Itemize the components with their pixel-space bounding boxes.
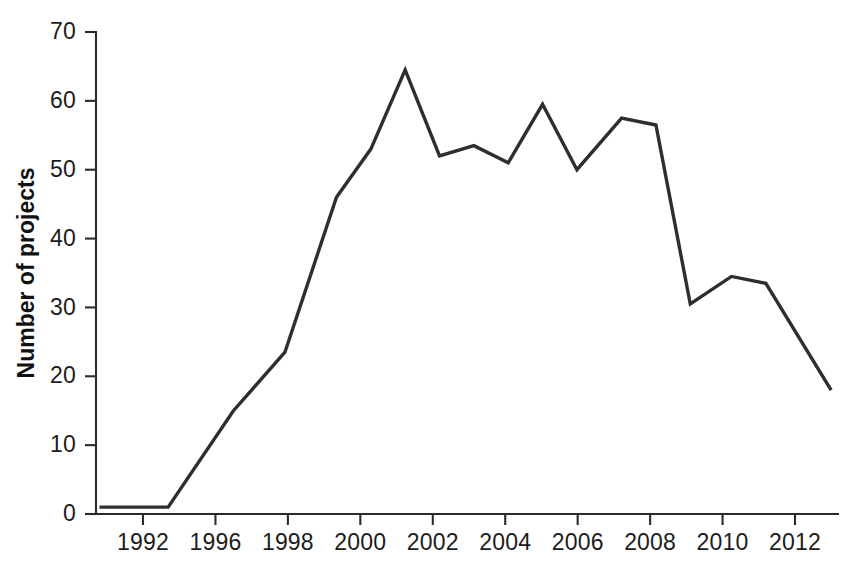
data-series-group (99, 70, 831, 507)
x-tick-label: 2006 (552, 529, 604, 555)
y-tick-label: 0 (63, 500, 76, 526)
y-tick-label: 60 (50, 87, 76, 113)
x-tick-label: 2012 (769, 529, 821, 555)
chart-figure: 010203040506070 199219961998200020022004… (0, 0, 841, 577)
x-tick-label: 2002 (407, 529, 459, 555)
x-axis-group: 1992199619982000200220042006200820102012 (96, 514, 838, 555)
y-tick-label: 20 (50, 362, 76, 388)
x-tick-label: 1998 (262, 529, 314, 555)
data-line-number-of-projects (99, 70, 831, 507)
x-tick-label: 2008 (624, 529, 676, 555)
y-tick-label: 50 (50, 156, 76, 182)
y-axis-title: Number of projects (13, 168, 39, 379)
y-tick-label: 40 (50, 225, 76, 251)
x-tick-label: 2000 (334, 529, 386, 555)
x-tick-label: 2010 (697, 529, 749, 555)
y-tick-label: 30 (50, 294, 76, 320)
x-tick-label: 2004 (479, 529, 531, 555)
y-axis-ticks (85, 32, 96, 514)
line-chart: 010203040506070 199219961998200020022004… (0, 0, 841, 577)
x-tick-label: 1992 (117, 529, 169, 555)
x-tick-label: 1996 (189, 529, 241, 555)
x-axis-tick-labels: 1992199619982000200220042006200820102012 (117, 529, 821, 555)
y-axis-title-group: Number of projects (13, 168, 39, 379)
y-tick-label: 70 (50, 18, 76, 44)
y-axis-tick-labels: 010203040506070 (50, 18, 76, 526)
y-tick-label: 10 (50, 431, 76, 457)
x-axis-ticks (143, 514, 795, 525)
y-axis-group: 010203040506070 (50, 18, 96, 526)
